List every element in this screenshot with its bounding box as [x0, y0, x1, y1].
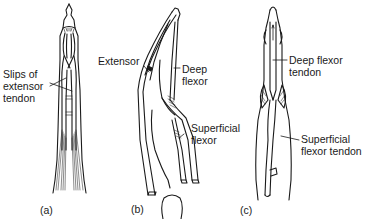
- label-line: flexor: [182, 75, 208, 87]
- label-line: flexor: [191, 134, 240, 146]
- panel-c-finger-drawing: [256, 7, 299, 200]
- finger-tendon-diagram: Slips of extensor tendon (a) Extensor De…: [0, 0, 367, 219]
- panel-a-finger-drawing: [50, 4, 86, 193]
- label-extensor: Extensor: [98, 55, 139, 67]
- label-line: Deep: [182, 63, 208, 75]
- panel-caption-c: (c): [240, 204, 252, 216]
- label-superficial-flexor: Superficial flexor: [191, 122, 240, 146]
- label-line: Superficial: [301, 133, 362, 145]
- label-line: tendon: [289, 66, 343, 78]
- diagram-artwork: [0, 0, 367, 219]
- label-line: tendon: [3, 92, 43, 104]
- label-slips-of-extensor-tendon: Slips of extensor tendon: [3, 68, 43, 104]
- label-line: Deep flexor: [289, 54, 343, 66]
- label-line: Slips of: [3, 68, 43, 80]
- label-line: flexor tendon: [301, 145, 362, 157]
- label-line: extensor: [3, 80, 43, 92]
- panel-caption-a: (a): [40, 204, 53, 216]
- panel-b-finger-drawing: [138, 8, 199, 219]
- label-deep-flexor: Deep flexor: [182, 63, 208, 87]
- label-line: Superficial: [191, 122, 240, 134]
- label-deep-flexor-tendon: Deep flexor tendon: [289, 54, 343, 78]
- panel-caption-b: (b): [131, 203, 144, 215]
- label-superficial-flexor-tendon: Superficial flexor tendon: [301, 133, 362, 157]
- label-line: Extensor: [98, 55, 139, 67]
